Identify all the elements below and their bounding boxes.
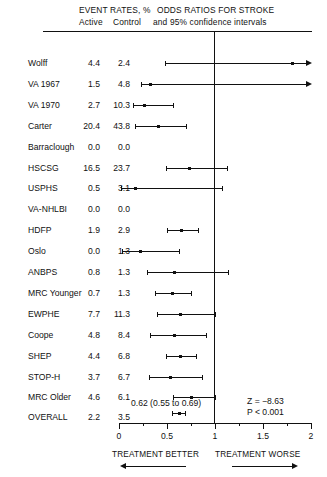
control-event-rate: 2.9 [104,225,130,235]
study-name-text: VA-NHLBI [0,204,67,214]
control-event-rate: 3.1 [104,183,130,193]
point-estimate-marker [173,271,176,274]
ci-cap-upper [185,411,186,416]
ci-cap-lower [149,375,150,380]
ci-cap-upper [179,249,180,254]
study-name-text: Wolff [0,58,47,68]
header-event-rates: EVENT RATES, % [79,5,151,15]
ci-line [141,84,307,85]
ci-line [150,335,207,336]
study-name-text: STOP-H [0,372,60,382]
study-name-text: Oslo [0,246,46,256]
active-event-rate: 0.7 [74,288,100,298]
active-event-rate: 4.4 [74,58,100,68]
ci-cap-upper [173,103,174,108]
ci-cap-upper [202,375,203,380]
ci-cap-lower [147,270,148,275]
control-event-rate: 0.0 [104,142,130,152]
ci-cap-lower [133,103,134,108]
active-event-rate: 0.0 [74,204,100,214]
direction-arrow-right-head [292,463,298,469]
control-event-rate: 11.3 [104,309,130,319]
active-event-rate: 0.5 [74,183,100,193]
control-event-rate: 2.4 [104,58,130,68]
ci-cap-upper [206,333,207,338]
forest-plot-figure: EVENT RATES, % Active Control ODDS RATIO… [0,0,327,477]
direction-arrow-left [126,466,186,467]
active-event-rate: 0.8 [74,267,100,277]
ci-cap-lower [135,124,136,129]
ci-cap-lower [141,82,142,87]
study-name-text: MRC Older [0,392,71,402]
ci-cap-lower [157,312,158,317]
point-estimate-marker [180,229,183,232]
header-rule [43,31,312,32]
control-event-rate: 0.0 [104,204,130,214]
study-name-text: EWPHE [0,309,60,319]
active-event-rate: 4.6 [74,392,100,402]
ci-line [133,105,172,106]
point-estimate-marker [179,355,182,358]
ci-line [147,272,229,273]
ci-cap-upper [215,312,216,317]
overall-label-text: OVERALL [0,412,68,422]
control-event-rate: 6.8 [104,351,130,361]
z-statistic-label: Z = −8.63 [247,396,284,406]
point-estimate-marker [143,104,146,107]
null-reference-line [214,32,215,423]
treatment-worse-label: TREATMENT WORSE [215,450,300,459]
active-event-rate: 3.7 [74,372,100,382]
point-estimate-marker [169,376,172,379]
point-estimate-marker [188,167,191,170]
ci-line [135,126,186,127]
study-name-text: VA 1970 [0,100,60,110]
active-event-rate: 1.5 [74,79,100,89]
ci-cap-upper [227,166,228,171]
overall-estimate-label: 0.62 (0.55 to 0.69) [131,398,201,408]
ci-line [122,251,179,252]
ci-cap-upper [191,291,192,296]
overall-active-event-rate: 2.2 [74,412,100,422]
ci-cap-lower [167,228,168,233]
active-event-rate: 20.4 [74,121,100,131]
study-name-text: Carter [0,121,52,131]
active-event-rate: 1.9 [74,225,100,235]
direction-arrow-right [232,466,292,467]
ci-cap-upper [196,354,197,359]
control-event-rate: 10.3 [104,100,130,110]
study-name-text: VA 1967 [0,79,60,89]
x-tick-major [263,423,264,429]
ci-line [149,377,202,378]
x-tick-label: 1.5 [248,431,278,441]
header-odds-ratios: ODDS RATIOS FOR STROKE [157,5,274,15]
p-value-label: P < 0.001 [247,407,284,417]
active-event-rate: 7.7 [74,309,100,319]
control-event-rate: 1.3 [104,288,130,298]
study-name-text: Coope [0,330,53,340]
point-estimate-marker [149,83,152,86]
point-estimate-marker [157,125,160,128]
point-estimate-marker [291,62,294,65]
header-confidence-intervals: and 95% confidence intervals [153,17,267,27]
ci-cap-lower [172,411,173,416]
control-event-rate: 1.3 [104,246,130,256]
x-tick-minor [191,423,192,426]
x-tick-minor [239,423,240,426]
study-name-text: MRC Younger [0,288,82,298]
ci-arrow-head [306,81,312,87]
active-event-rate: 0.0 [74,246,100,256]
treatment-better-label: TREATMENT BETTER [112,450,199,459]
ci-cap-upper [228,270,229,275]
point-estimate-marker [173,334,176,337]
study-name-text: HSCSG [0,163,59,173]
ci-line [165,63,307,64]
point-estimate-marker [139,250,142,253]
control-event-rate: 6.1 [104,392,130,402]
ci-cap-lower [166,166,167,171]
ci-cap-upper [186,124,187,129]
study-name-text: HDFP [0,225,51,235]
x-tick-label: 0.5 [152,431,182,441]
point-estimate-marker [178,412,181,415]
ci-line [172,413,185,414]
direction-arrow-left-head [120,463,126,469]
